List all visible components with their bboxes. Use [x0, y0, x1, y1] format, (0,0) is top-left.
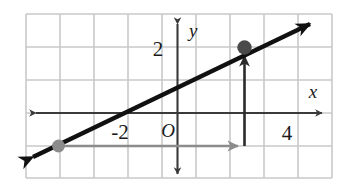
- graph-figure: y x 2 -2 4 O: [0, 0, 358, 190]
- origin-label: O: [161, 120, 175, 141]
- coordinate-plane-svg: y x 2 -2 4 O: [0, 0, 358, 190]
- x-axis-label: x: [308, 81, 318, 102]
- point-marker-gray: [52, 140, 65, 153]
- y-axis-label: y: [187, 20, 198, 41]
- x-tick-label-4: 4: [282, 121, 293, 145]
- x-tick-label-negative-2: -2: [111, 120, 129, 144]
- point-marker-dark: [237, 40, 251, 54]
- y-tick-label-2: 2: [153, 37, 164, 61]
